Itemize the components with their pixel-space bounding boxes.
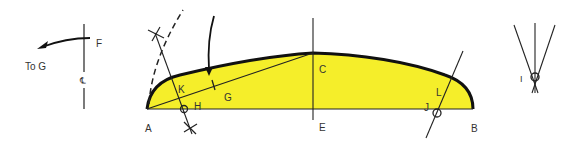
label-a: A [145, 123, 152, 134]
label-i: I [520, 74, 523, 84]
right-diagonal-left [514, 25, 538, 93]
label-to-g: To G [25, 61, 46, 72]
diagram-canvas: F To G ℄ A B [0, 0, 574, 149]
label-j: J [424, 102, 429, 113]
arrow-head-icon [37, 41, 48, 49]
label-e: E [319, 122, 326, 133]
label-b: B [471, 123, 478, 134]
label-f: F [96, 38, 102, 49]
label-c: C [319, 64, 326, 75]
label-k: K [178, 84, 185, 95]
left-detail: F To G ℄ [25, 24, 102, 109]
cross-top-icon [148, 27, 164, 41]
centerline-symbol: ℄ [79, 76, 86, 86]
label-g: G [224, 92, 232, 103]
pointer-curve [209, 16, 214, 70]
label-h: H [194, 101, 201, 112]
curved-arrow-shaft [42, 38, 90, 47]
cross-bottom-icon [184, 122, 197, 134]
label-l: L [436, 87, 442, 98]
main-shape: A B C E G H J K L [145, 10, 478, 138]
